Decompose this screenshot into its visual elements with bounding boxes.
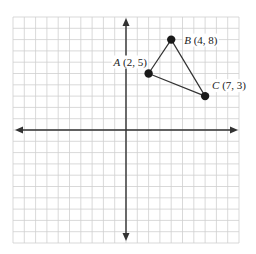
arrow-left-icon [15, 127, 23, 134]
point-b-dot-icon [167, 35, 175, 43]
point-a-dot-icon [144, 69, 152, 77]
label-b: B (4, 8) [183, 34, 219, 47]
svg-text:B (4, 8): B (4, 8) [184, 34, 218, 47]
label-c: C (7, 3) [211, 79, 247, 92]
svg-text:C (7, 3): C (7, 3) [212, 79, 246, 92]
label-a: A (2, 5) [112, 56, 149, 69]
coordinate-plane: A (2, 5) B (4, 8) C (7, 3) [0, 0, 256, 254]
point-labels: A (2, 5) B (4, 8) C (7, 3) [112, 34, 248, 93]
point-coords: (7, 3) [222, 79, 246, 92]
point-coords: (2, 5) [123, 56, 147, 69]
point-c-dot-icon [201, 92, 209, 100]
triangle-outline [149, 40, 206, 97]
axes [15, 18, 238, 241]
arrow-down-icon [123, 233, 130, 241]
arrow-up-icon [123, 18, 130, 26]
svg-text:A (2, 5): A (2, 5) [113, 56, 148, 69]
arrow-right-icon [230, 127, 238, 134]
triangle-abc [149, 40, 206, 97]
point-coords: (4, 8) [194, 34, 218, 47]
